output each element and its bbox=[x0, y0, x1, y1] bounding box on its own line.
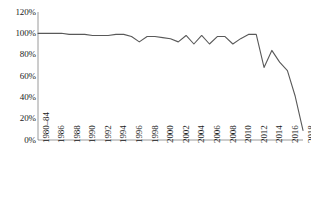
x-tick-label: 2000 bbox=[166, 125, 175, 143]
x-tick-label: 2012 bbox=[260, 125, 269, 143]
x-tick-label: 1994 bbox=[119, 125, 128, 143]
x-tick-label: 1986 bbox=[57, 125, 66, 143]
x-tick-label: 2008 bbox=[229, 125, 238, 143]
x-axis-tick-labels: 1980–84198619881990199219941996199820002… bbox=[0, 0, 311, 199]
x-tick-label: 1990 bbox=[88, 125, 97, 143]
x-tick-label: 2010 bbox=[244, 125, 253, 143]
x-tick-label: 2018 bbox=[307, 125, 312, 143]
x-tick-label: 2006 bbox=[213, 125, 222, 143]
x-tick-label: 2002 bbox=[182, 125, 191, 143]
x-tick-label: 1998 bbox=[151, 125, 160, 143]
x-tick-label: 2016 bbox=[291, 125, 300, 143]
line-chart: 0%20%40%60%80%100%120% 1980–841986198819… bbox=[0, 0, 311, 199]
x-tick-label: 1992 bbox=[104, 125, 113, 143]
x-tick-label: 2014 bbox=[275, 125, 284, 143]
x-tick-label: 2004 bbox=[197, 125, 206, 143]
x-tick-label: 1980–84 bbox=[42, 112, 51, 143]
x-tick-label: 1988 bbox=[73, 125, 82, 143]
x-tick-label: 1996 bbox=[135, 125, 144, 143]
